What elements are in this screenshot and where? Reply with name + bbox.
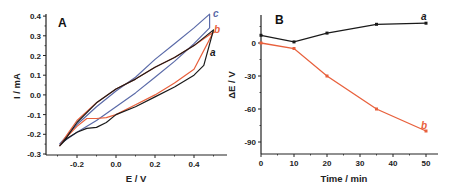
- panel-a-curves: [60, 14, 214, 146]
- x-tick-label: 20: [323, 159, 332, 168]
- data-point-marker: [326, 32, 329, 35]
- y-tick-label: -0.3: [27, 150, 41, 159]
- data-point-marker: [375, 108, 378, 111]
- panel-a-y-axis-title: I / mA: [11, 73, 22, 99]
- curve-label-c: c: [213, 8, 219, 19]
- y-tick-label: -0.2: [27, 130, 41, 139]
- panel-a-y-ticks: 0.40.30.20.10.0-0.1-0.2-0.3: [27, 12, 46, 159]
- panel-a-x-ticks: -0.20.00.20.4: [58, 155, 214, 169]
- panel-b-curves: [260, 22, 428, 133]
- data-point-marker: [293, 47, 296, 50]
- panel-a-x-axis-title: E / V: [126, 173, 147, 184]
- figure: 0.40.30.20.10.0-0.1-0.2-0.3 -0.20.00.20.…: [0, 0, 449, 188]
- x-tick-label: 0.4: [188, 160, 200, 169]
- y-tick-label: -90: [244, 138, 256, 147]
- panel-b: 0-30-60-90 01020304050 B Time / min ΔE /…: [226, 11, 438, 184]
- y-tick-label: 0.4: [30, 12, 42, 21]
- y-tick-label: 0.2: [30, 52, 42, 61]
- y-tick-label: -30: [244, 72, 256, 81]
- x-tick-label: -0.2: [70, 160, 84, 169]
- x-tick-label: 50: [422, 159, 431, 168]
- panel-a-axes: [46, 14, 227, 155]
- panel-a: 0.40.30.20.10.0-0.1-0.2-0.3 -0.20.00.20.…: [11, 8, 227, 184]
- data-point-marker: [293, 40, 296, 43]
- data-point-marker: [260, 34, 263, 37]
- data-point-marker: [375, 23, 378, 26]
- panel-a-label: A: [58, 16, 67, 30]
- data-point-marker: [326, 75, 329, 78]
- y-tick-label: -60: [244, 105, 256, 114]
- y-tick-label: -0.1: [27, 111, 41, 120]
- x-tick-label: 40: [389, 159, 398, 168]
- panel-b-y-ticks: 0-30-60-90: [244, 27, 261, 148]
- data-point-marker: [425, 22, 428, 25]
- x-tick-label: 10: [290, 159, 299, 168]
- series-line-b: [261, 43, 426, 131]
- curve-label-a: a: [421, 11, 427, 22]
- x-tick-label: 0: [259, 159, 264, 168]
- panel-b-label: B: [275, 13, 284, 27]
- curve-label-b: b: [214, 24, 220, 35]
- x-tick-label: 30: [356, 159, 365, 168]
- y-tick-label: 0.1: [30, 71, 42, 80]
- series-line-a: [261, 23, 426, 42]
- y-tick-label: 0.0: [30, 91, 42, 100]
- panel-b-y-axis-title: ΔE / V: [226, 71, 237, 99]
- y-tick-label: 0.3: [30, 32, 42, 41]
- panel-b-x-ticks: 01020304050: [259, 154, 431, 168]
- panel-b-x-axis-title: Time / min: [321, 173, 368, 184]
- curve-label-a: a: [210, 47, 216, 58]
- panel-b-axes: [261, 15, 438, 154]
- x-tick-label: 0.2: [149, 160, 161, 169]
- x-tick-label: 0.0: [110, 160, 122, 169]
- y-tick-label: 0: [252, 39, 257, 48]
- data-point-marker: [260, 42, 263, 45]
- curve-label-b: b: [421, 120, 427, 131]
